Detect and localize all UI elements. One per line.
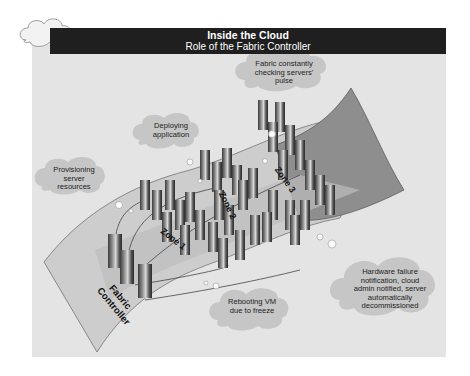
callout-hardware: Hardware failure notification, cloud adm… <box>350 268 430 311</box>
page-title: Inside the Cloud <box>50 30 446 41</box>
callout-deploy: Deploying application <box>144 122 198 139</box>
callout-pulse: Fabric constantly checking servers' puls… <box>245 60 323 86</box>
callout-reboot: Rebooting VM due to freeze <box>224 298 280 315</box>
callout-provision: Provisioning server resources <box>48 166 100 192</box>
page-subtitle: Role of the Fabric Controller <box>50 41 446 52</box>
title-bar: Inside the Cloud Role of the Fabric Cont… <box>50 28 446 54</box>
